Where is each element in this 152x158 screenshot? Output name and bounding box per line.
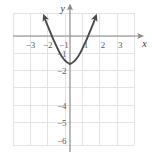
x-tick-label: −2 — [43, 40, 53, 50]
graph-figure: −3 −2 −1 1 2 3 −1 −2 −4 −5 −6 y x — [0, 0, 152, 158]
x-axis-label: x — [141, 38, 147, 49]
x-tick-label: 2 — [101, 40, 106, 50]
x-tick-label: 3 — [118, 40, 123, 50]
x-axis — [13, 33, 144, 39]
y-axis — [67, 4, 73, 153]
parabola-plot: −3 −2 −1 1 2 3 −1 −2 −4 −5 −6 y x — [0, 0, 152, 158]
x-tick-labels: −3 −2 −1 1 2 3 — [26, 40, 123, 50]
y-tick-label: −4 — [57, 101, 67, 111]
x-tick-label: −3 — [26, 40, 36, 50]
y-tick-label: −1 — [57, 49, 67, 59]
y-tick-label: −5 — [57, 118, 67, 128]
grid-lines — [13, 13, 134, 145]
x-tick-label: −1 — [59, 40, 69, 50]
y-tick-label: −6 — [57, 136, 67, 146]
x-tick-label: 1 — [84, 40, 89, 50]
y-axis-label: y — [60, 3, 66, 14]
y-tick-label: −2 — [57, 66, 67, 76]
